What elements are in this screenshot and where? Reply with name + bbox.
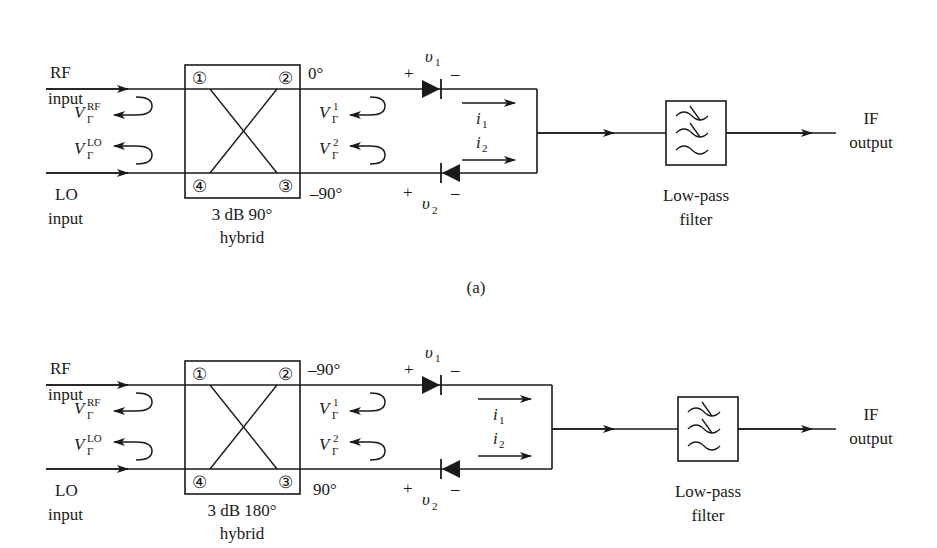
diode-2-plus: + <box>403 183 413 202</box>
wave-icon <box>688 408 720 416</box>
svg-text:1: 1 <box>435 352 441 364</box>
svg-text:1: 1 <box>333 100 339 112</box>
filter-label-2: filter <box>691 506 724 525</box>
if-output-label: IF <box>863 109 878 128</box>
svg-text:2: 2 <box>432 500 438 512</box>
if-output-label-2: output <box>849 133 893 152</box>
svg-text:υ: υ <box>422 194 430 213</box>
svg-text:i: i <box>476 133 481 152</box>
port-2: ② <box>278 69 293 88</box>
wave-icon <box>676 146 708 154</box>
v-gamma-1: V Γ 1 <box>319 100 339 125</box>
svg-text:V: V <box>74 435 87 454</box>
diode-1-minus: – <box>450 64 460 83</box>
svg-text:Γ: Γ <box>87 149 93 161</box>
port-4: ④ <box>192 473 207 492</box>
svg-text:Γ: Γ <box>87 445 93 457</box>
svg-text:υ: υ <box>422 490 430 509</box>
svg-text:V: V <box>319 435 332 454</box>
svg-text:i: i <box>493 429 498 448</box>
svg-text:υ: υ <box>425 343 433 362</box>
svg-text:2: 2 <box>482 142 488 154</box>
reflected-arrow-icon <box>350 393 385 411</box>
svg-text:υ: υ <box>425 47 433 66</box>
subfigure-b: RF input LO input V Γ RF V Γ LO ① ② ③ ④ … <box>46 343 893 543</box>
svg-text:Γ: Γ <box>87 409 93 421</box>
reflected-arrow-icon <box>350 146 385 164</box>
diode-2-plus: + <box>403 479 413 498</box>
svg-text:V: V <box>319 399 332 418</box>
svg-text:RF: RF <box>87 396 100 408</box>
v-gamma-lo: V Γ LO <box>74 432 102 457</box>
if-output-label: IF <box>863 405 878 424</box>
lo-input-label: LO <box>55 185 78 204</box>
v2-label: υ 2 <box>422 490 438 512</box>
phase-bottom: 90° <box>313 480 337 499</box>
i1-label: i 1 <box>476 109 488 130</box>
svg-text:i: i <box>493 405 498 424</box>
svg-text:Γ: Γ <box>332 113 338 125</box>
reflected-arrow-icon <box>114 146 152 164</box>
svg-text:V: V <box>74 399 87 418</box>
svg-text:RF: RF <box>87 100 100 112</box>
v2-label: υ 2 <box>422 194 438 216</box>
svg-text:2: 2 <box>432 204 438 216</box>
port-1: ① <box>192 69 207 88</box>
svg-text:V: V <box>74 103 87 122</box>
filter-label: Low-pass <box>663 186 729 205</box>
v-gamma-2: V Γ 2 <box>319 432 339 457</box>
svg-text:V: V <box>319 139 332 158</box>
filter-label: Low-pass <box>675 482 741 501</box>
diode-2-minus: – <box>450 183 460 202</box>
svg-text:2: 2 <box>333 432 339 444</box>
subfigure-a: RF input LO input V Γ RF V Γ LO ① ② ③ ④ <box>46 0 893 297</box>
wave-icon <box>688 442 720 450</box>
hybrid-label-2: hybrid <box>220 524 265 543</box>
svg-text:Γ: Γ <box>87 113 93 125</box>
v-gamma-2: V Γ 2 <box>319 136 339 161</box>
svg-text:Γ: Γ <box>332 149 338 161</box>
reflected-arrow-icon <box>114 393 152 411</box>
reflected-arrow-icon <box>350 442 385 460</box>
phase-top: 0° <box>308 64 323 83</box>
wave-icon <box>676 112 708 120</box>
rf-input-label: RF <box>50 359 71 378</box>
svg-text:1: 1 <box>499 414 505 426</box>
diode-2-minus: – <box>450 479 460 498</box>
reflected-arrow-icon <box>350 97 385 115</box>
port-4: ④ <box>192 177 207 196</box>
i2-label: i 2 <box>493 429 505 450</box>
svg-text:Γ: Γ <box>332 409 338 421</box>
rf-input-label: RF <box>50 63 71 82</box>
diode-1-plus: + <box>404 360 414 379</box>
phase-top: –90° <box>307 360 340 379</box>
diode-1 <box>422 375 441 395</box>
v-gamma-lo: V Γ LO <box>74 136 102 161</box>
diode-2 <box>441 459 460 479</box>
svg-text:2: 2 <box>333 136 339 148</box>
wave-icon <box>676 129 708 137</box>
port-3: ③ <box>278 473 293 492</box>
svg-text:Γ: Γ <box>332 445 338 457</box>
balanced-mixer-diagram: RF input LO input V Γ RF V Γ LO ① ② ③ ④ <box>0 0 937 548</box>
reflected-arrow-icon <box>114 97 152 115</box>
hybrid-label: 3 dB 90° <box>212 205 273 224</box>
diode-2 <box>160 0 460 183</box>
filter-label-2: filter <box>679 210 712 229</box>
v1-label: υ 1 <box>425 343 441 364</box>
svg-text:1: 1 <box>333 396 339 408</box>
reflected-arrow-icon <box>114 442 152 460</box>
i2-label: i 2 <box>476 133 488 154</box>
diode-1-minus: – <box>450 360 460 379</box>
svg-text:V: V <box>74 139 87 158</box>
subfigure-caption: (a) <box>467 278 486 297</box>
svg-text:1: 1 <box>435 56 441 68</box>
svg-text:i: i <box>476 109 481 128</box>
v-gamma-1: V Γ 1 <box>319 396 339 421</box>
hybrid-label-2: hybrid <box>220 228 265 247</box>
v1-label: υ 1 <box>425 47 441 68</box>
diode-1-plus: + <box>404 64 414 83</box>
svg-text:1: 1 <box>482 118 488 130</box>
v-gamma-rf: V Γ RF <box>74 396 100 421</box>
svg-text:LO: LO <box>87 136 102 148</box>
